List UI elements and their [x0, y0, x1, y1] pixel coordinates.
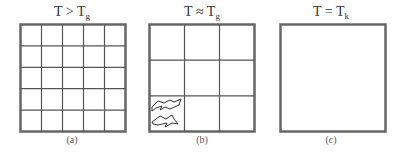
- panel-b-title-text: T ≈ T: [184, 4, 215, 19]
- panel-a-title: T > Tg: [7, 4, 137, 24]
- panel-a-title-text: T > T: [54, 4, 86, 19]
- panel-a-title-subscript: g: [86, 11, 91, 21]
- grid-1x1: [279, 23, 387, 133]
- panel-a-caption: (a): [7, 134, 137, 145]
- panel-c: T = Tk (c): [266, 0, 396, 154]
- panel-a: T > Tg (a): [7, 0, 137, 154]
- panel-b-title: T ≈ Tg: [137, 4, 267, 24]
- panel-c-title: T = Tk: [266, 4, 396, 24]
- grid-5x5: [19, 23, 127, 133]
- grid-3x3: [148, 23, 256, 133]
- panel-c-title-text: T = T: [313, 4, 345, 19]
- panel-b: T ≈ Tg (b): [137, 0, 267, 154]
- panel-c-title-subscript: k: [345, 11, 350, 21]
- panel-c-caption: (c): [266, 134, 396, 145]
- panel-b-caption: (b): [137, 134, 267, 145]
- panel-b-title-subscript: g: [215, 11, 220, 21]
